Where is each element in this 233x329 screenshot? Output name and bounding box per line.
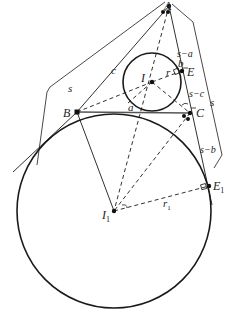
label-r: r: [166, 66, 171, 78]
label-C: C: [196, 106, 205, 120]
point-C-mark1: [182, 114, 186, 118]
dashed-I-C: [152, 82, 190, 113]
angle-arc-I1: [122, 205, 127, 208]
point-C-mark2: [186, 117, 190, 121]
label-s-right: s: [210, 96, 214, 108]
point-C: [188, 111, 192, 115]
label-s-minus-c: s−c: [189, 88, 205, 99]
line-AB-extended: [13, 112, 77, 172]
point-I: [150, 80, 154, 84]
segment-B-I1: [77, 112, 114, 211]
dashed-I-bottom: [128, 82, 152, 103]
side-BC: [77, 112, 190, 113]
point-E1: [207, 184, 211, 188]
label-I1: I1: [101, 208, 110, 224]
side-AB: [77, 6, 169, 112]
point-B: [75, 110, 80, 115]
side-AC-extended: [169, 6, 212, 205]
label-A: A: [163, 0, 172, 13]
dashed-I1-E1: [114, 186, 209, 211]
angle-arc-C: [182, 103, 188, 105]
label-s-minus-a: s−a: [177, 48, 193, 59]
dashed-C-I1: [114, 113, 190, 211]
label-c: c: [111, 64, 116, 76]
label-s-minus-b: s−b: [200, 144, 216, 155]
right-angle-E: [173, 68, 179, 74]
dashed-B-I: [77, 82, 152, 112]
geometry-diagram: A B C E I r a b c s s s−a s−c s−b I1 E1 …: [0, 0, 233, 329]
label-r1: r1: [163, 197, 171, 212]
dashed-A-I1: [114, 6, 169, 211]
label-s-left: s: [68, 82, 72, 94]
label-I: I: [140, 71, 146, 85]
label-E1: E1: [212, 179, 224, 195]
label-E: E: [186, 65, 195, 79]
point-I1: [112, 209, 116, 213]
point-E: [180, 69, 184, 73]
bracket-s-left: [37, 2, 165, 165]
label-a: a: [128, 101, 134, 113]
label-B: B: [63, 106, 71, 120]
